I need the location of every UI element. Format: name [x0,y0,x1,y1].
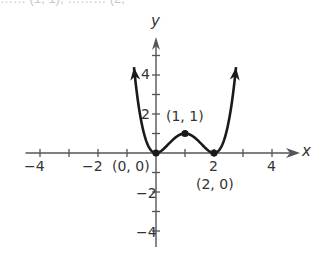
axes [26,37,301,247]
x-tick-label-neg2: −2 [82,159,103,173]
point-marker [210,149,217,156]
point-marker [181,130,188,137]
y-tick-label-neg2: −2 [136,186,157,200]
x-tick-label-2: 2 [209,159,218,173]
y-axis-label: y [151,14,160,29]
point-label-origin: (0, 0) [112,159,150,173]
x-axis-label: x [302,144,311,159]
y-tick-label-2: 2 [141,107,150,121]
y-tick-label-4: 4 [141,67,150,81]
point-marker [152,149,159,156]
x-tick-label-4: 4 [267,159,276,173]
point-label-local-max: (1, 1) [166,109,204,123]
graph-plot [0,0,327,263]
point-label-2-0: (2, 0) [196,177,234,191]
y-tick-label-neg4: −4 [136,225,157,239]
x-tick-label-neg4: −4 [24,159,45,173]
